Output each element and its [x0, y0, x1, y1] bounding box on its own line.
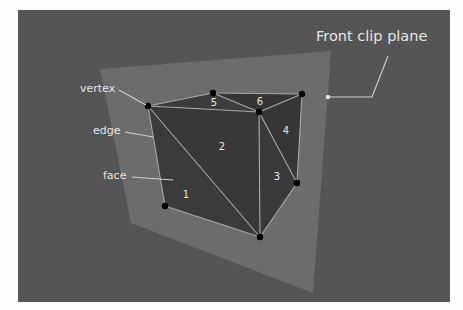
vertex-dot — [256, 109, 262, 115]
face-number-4: 4 — [283, 125, 289, 136]
vertex-dot — [145, 103, 151, 109]
vertex-dot — [162, 203, 168, 209]
face-number-1: 1 — [183, 189, 189, 200]
clip-plane-leader-dot — [326, 95, 331, 100]
front-clip-plane-label: Front clip plane — [316, 28, 427, 44]
edge-label: edge — [93, 124, 121, 137]
face-number-5: 5 — [211, 97, 217, 108]
vertex-dot — [210, 90, 216, 96]
clip-plane-diagram: 1 2 3 4 5 6 vertex edge face Front clip … — [0, 0, 463, 310]
face-number-6: 6 — [257, 96, 263, 107]
vertex-label: vertex — [80, 82, 116, 95]
vertex-dot — [299, 91, 305, 97]
face-number-3: 3 — [274, 171, 280, 182]
vertex-dot — [257, 234, 263, 240]
face-label: face — [103, 169, 127, 182]
face-number-2: 2 — [219, 141, 225, 152]
vertex-dot — [294, 180, 300, 186]
